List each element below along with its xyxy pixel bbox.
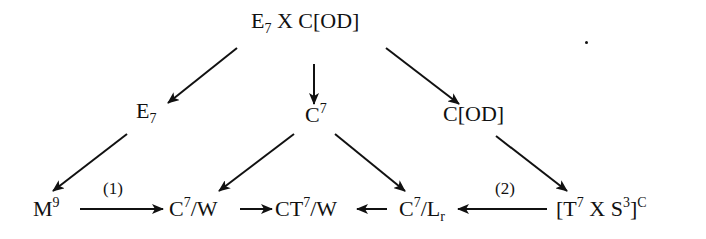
node-text: /W bbox=[191, 196, 218, 221]
node-superscript: 7 bbox=[184, 195, 191, 210]
stray-dot bbox=[585, 41, 588, 44]
node-text: /L bbox=[421, 196, 441, 221]
edge-label-2: (2) bbox=[495, 180, 515, 197]
edge-label-1: (1) bbox=[103, 180, 123, 197]
node-text: X S bbox=[584, 196, 623, 221]
node-text: E bbox=[251, 8, 264, 33]
node-text: CT bbox=[275, 196, 303, 221]
node-text: C[OD] bbox=[443, 101, 504, 126]
node-subscript: 7 bbox=[149, 111, 156, 126]
node-ct7-w: CT7/W bbox=[275, 198, 337, 220]
arrow-top-to-e7 bbox=[168, 48, 237, 103]
node-text: E bbox=[136, 98, 149, 123]
node-superscript: C bbox=[637, 195, 646, 210]
node-superscript: 3 bbox=[623, 195, 630, 210]
node-superscript: 9 bbox=[53, 195, 60, 210]
node-c7-lr: C7/Lr bbox=[399, 198, 445, 220]
node-text: X C[OD] bbox=[271, 8, 359, 33]
node-c7-w: C7/W bbox=[169, 198, 218, 220]
node-text: M bbox=[33, 196, 53, 221]
arrow-c7-to-c7w bbox=[219, 134, 294, 191]
node-text: [T bbox=[556, 196, 577, 221]
node-cod: C[OD] bbox=[443, 103, 504, 125]
node-text: C bbox=[305, 102, 320, 127]
arrow-top-to-cod bbox=[386, 48, 459, 104]
node-superscript: 7 bbox=[577, 195, 584, 210]
node-superscript: 7 bbox=[414, 195, 421, 210]
node-text: C bbox=[399, 196, 414, 221]
node-text: /W bbox=[310, 196, 337, 221]
node-subscript: r bbox=[440, 209, 445, 224]
node-c7: C7 bbox=[305, 104, 327, 126]
node-text: C bbox=[169, 196, 184, 221]
node-superscript: 7 bbox=[320, 101, 327, 116]
node-t7-x-s3-c: [T7 X S3]C bbox=[556, 198, 647, 220]
node-m9: M9 bbox=[33, 198, 60, 220]
arrow-c7-to-c7lr bbox=[335, 134, 405, 191]
node-e7: E7 bbox=[136, 100, 156, 122]
node-e7-x-cod: E7 X C[OD] bbox=[251, 10, 359, 32]
